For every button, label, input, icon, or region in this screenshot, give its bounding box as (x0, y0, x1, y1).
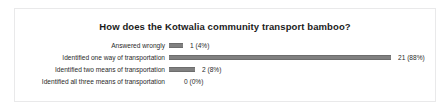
bar-row: Identified one way of transportation 21 … (15, 52, 435, 64)
bar-track: 1 (4%) (169, 40, 435, 52)
bar-two-means[interactable] (169, 67, 195, 72)
bar-row: Identified all three means of transporta… (15, 76, 435, 88)
category-label-two-means: Identified two means of transportation (0, 65, 165, 75)
category-label-all-three-means: Identified all three means of transporta… (0, 77, 165, 87)
bar-track: 2 (8%) (169, 64, 435, 76)
bar-track: 21 (88%) (169, 52, 435, 64)
category-label-one-way: Identified one way of transportation (0, 53, 165, 63)
bar-track: 0 (0%) (169, 76, 435, 88)
bar-row: Answered wrongly 1 (4%) (15, 40, 435, 52)
bar-one-way[interactable] (169, 55, 391, 60)
bar-row: Identified two means of transportation 2… (15, 64, 435, 76)
value-label-answered-wrongly: 1 (4%) (190, 41, 209, 51)
value-label-one-way: 21 (88%) (398, 53, 425, 63)
bar-chart-plot-area: Answered wrongly 1 (4%) Identified one w… (15, 40, 435, 96)
category-label-answered-wrongly: Answered wrongly (0, 41, 165, 51)
value-label-two-means: 2 (8%) (202, 65, 221, 75)
chart-frame: How does the Kotwalia community transpor… (14, 8, 436, 102)
value-label-all-three-means: 0 (0%) (184, 77, 203, 87)
bar-answered-wrongly[interactable] (169, 43, 183, 48)
chart-title: How does the Kotwalia community transpor… (15, 21, 435, 32)
